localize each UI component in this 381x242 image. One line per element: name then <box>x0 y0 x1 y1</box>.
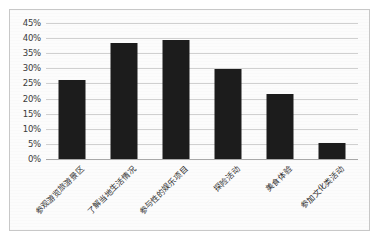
x-axis-category-label: 参与性的娱乐项目 <box>136 163 190 217</box>
y-axis-tick-label: 30% <box>23 63 41 73</box>
bar-slot <box>306 23 358 159</box>
y-axis-tick-label: 25% <box>23 78 41 88</box>
x-axis-category-label: 美食体验 <box>263 163 294 194</box>
y-axis-tick-label: 5% <box>28 139 41 149</box>
bar[interactable] <box>319 143 346 159</box>
bar[interactable] <box>111 43 138 159</box>
chart-figure: 45%40%35%30%25%20%15%10%5%0% 参观游览旅游景区了解当… <box>9 9 370 231</box>
y-axis-tick-label: 20% <box>23 94 41 104</box>
x-axis-category-label: 探险活动 <box>211 163 242 194</box>
y-axis-tick-label: 45% <box>23 18 41 28</box>
y-axis-tick-label: 40% <box>23 33 41 43</box>
bar[interactable] <box>267 94 294 159</box>
y-axis-tick-label: 15% <box>23 109 41 119</box>
bar-slot <box>202 23 254 159</box>
plot-area: 45%40%35%30%25%20%15%10%5%0% 参观游览旅游景区了解当… <box>46 23 358 159</box>
y-axis-tick-label: 0% <box>28 154 41 164</box>
bar[interactable] <box>163 40 190 159</box>
y-axis-tick-label: 35% <box>23 48 41 58</box>
bar-series <box>46 23 358 159</box>
gridline <box>46 159 358 160</box>
bar[interactable] <box>59 80 86 159</box>
bar-slot <box>46 23 98 159</box>
bar[interactable] <box>215 69 242 159</box>
x-axis-category-label: 参观游览旅游景区 <box>32 163 86 217</box>
x-axis-category-label: 参加文化类活动 <box>298 163 346 211</box>
x-axis-category-label: 了解当地生活情况 <box>84 163 138 217</box>
y-axis-tick-label: 10% <box>23 124 41 134</box>
bar-slot <box>98 23 150 159</box>
bar-slot <box>254 23 306 159</box>
bar-slot <box>150 23 202 159</box>
